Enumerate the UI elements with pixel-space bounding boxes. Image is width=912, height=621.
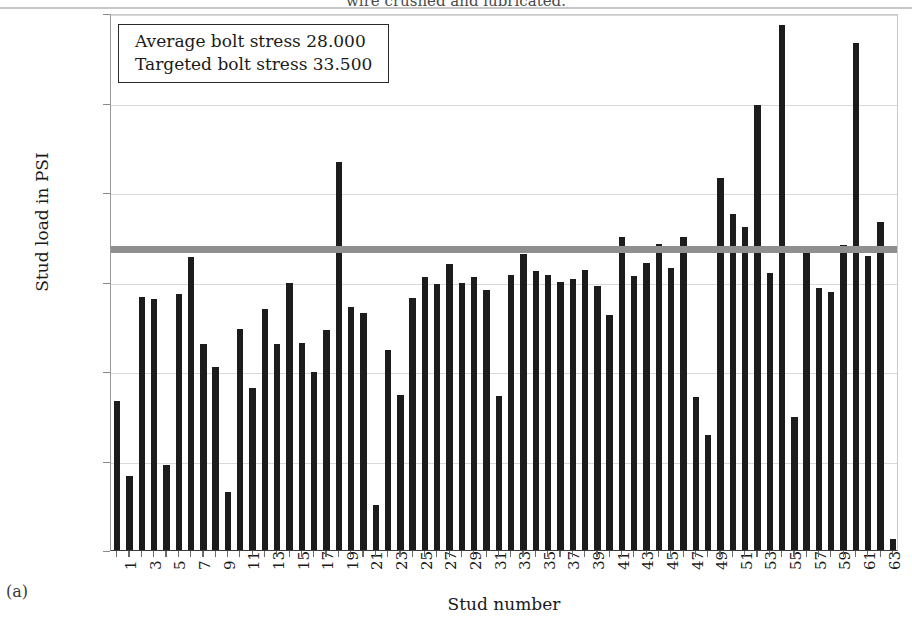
x-tick-label: 9 xyxy=(221,558,239,570)
x-tick-mark xyxy=(732,551,733,557)
x-tick-label: 43 xyxy=(639,558,657,570)
bar xyxy=(323,330,329,550)
bar xyxy=(237,329,243,550)
x-tick-mark xyxy=(375,551,376,557)
x-tick-mark xyxy=(646,551,647,557)
bar xyxy=(668,268,674,550)
x-tick-mark xyxy=(756,551,757,557)
x-tick-label: 7 xyxy=(196,558,214,570)
target-stress-line xyxy=(111,246,897,253)
x-tick-mark xyxy=(301,551,302,557)
x-tick-mark xyxy=(769,551,770,557)
x-tick-label: 5 xyxy=(171,558,189,570)
y-tick-mark xyxy=(103,462,110,463)
x-tick-mark xyxy=(276,551,277,557)
y-tick-mark xyxy=(103,14,110,15)
bar xyxy=(890,539,896,550)
x-tick-label: 57 xyxy=(812,558,830,570)
x-tick-mark xyxy=(227,551,228,557)
bar xyxy=(200,344,206,550)
x-tick-mark xyxy=(572,551,573,557)
x-tick-label: 27 xyxy=(442,558,460,570)
x-tick-mark xyxy=(178,551,179,557)
x-tick-mark xyxy=(264,551,265,557)
bar xyxy=(483,290,489,550)
bar xyxy=(705,435,711,550)
x-tick-label: 45 xyxy=(664,558,682,570)
bar xyxy=(286,283,292,550)
bar xyxy=(299,343,305,550)
y-tick-mark xyxy=(103,104,110,105)
x-tick-mark xyxy=(153,551,154,557)
bar xyxy=(262,309,268,550)
x-tick-label: 35 xyxy=(541,558,559,570)
x-tick-label: 11 xyxy=(245,558,263,570)
bar xyxy=(446,264,452,550)
bar xyxy=(619,237,625,550)
x-tick-mark xyxy=(867,551,868,557)
bar xyxy=(151,299,157,550)
legend-line-average: Average bolt stress 28.000 xyxy=(135,30,372,53)
x-tick-label: 17 xyxy=(319,558,337,570)
x-tick-mark xyxy=(559,551,560,557)
bar xyxy=(803,251,809,550)
x-tick-label: 23 xyxy=(393,558,411,570)
bar xyxy=(176,294,182,550)
x-tick-mark xyxy=(387,551,388,557)
bar xyxy=(434,284,440,550)
x-tick-mark xyxy=(362,551,363,557)
x-tick-label: 55 xyxy=(787,558,805,570)
bar xyxy=(249,388,255,550)
x-tick-mark xyxy=(141,551,142,557)
x-tick-mark xyxy=(695,551,696,557)
x-tick-label: 25 xyxy=(418,558,436,570)
bar xyxy=(385,350,391,550)
top-rule xyxy=(0,7,912,9)
bar xyxy=(754,105,760,550)
bar xyxy=(594,286,600,550)
y-tick-mark xyxy=(103,551,110,552)
bar xyxy=(877,222,883,550)
bar xyxy=(508,275,514,550)
bar xyxy=(606,315,612,550)
x-tick-mark xyxy=(596,551,597,557)
x-tick-mark xyxy=(855,551,856,557)
bar xyxy=(459,283,465,550)
x-tick-mark xyxy=(744,551,745,557)
x-tick-label: 29 xyxy=(467,558,485,570)
x-tick-mark xyxy=(609,551,610,557)
bar xyxy=(693,397,699,550)
x-tick-mark xyxy=(313,551,314,557)
bar xyxy=(557,282,563,551)
x-tick-mark xyxy=(424,551,425,557)
x-tick-mark xyxy=(486,551,487,557)
bar xyxy=(533,271,539,550)
x-axis-label: Stud number xyxy=(110,594,898,614)
x-tick-mark xyxy=(473,551,474,557)
x-tick-mark xyxy=(449,551,450,557)
x-tick-mark xyxy=(584,551,585,557)
bar xyxy=(311,372,317,550)
legend-box: Average bolt stress 28.000 Targeted bolt… xyxy=(118,24,389,83)
y-tick-mark xyxy=(103,193,110,194)
bar xyxy=(791,417,797,550)
x-tick-label: 39 xyxy=(590,558,608,570)
bar xyxy=(409,298,415,550)
bar xyxy=(360,313,366,550)
x-tick-mark xyxy=(289,551,290,557)
x-tick-mark xyxy=(350,551,351,557)
bar xyxy=(570,279,576,550)
x-tick-mark xyxy=(683,551,684,557)
bar xyxy=(126,476,132,550)
bar xyxy=(816,288,822,550)
bar xyxy=(545,275,551,550)
bar xyxy=(471,277,477,550)
bar xyxy=(582,270,588,550)
y-tick-mark xyxy=(103,283,110,284)
bar xyxy=(114,401,120,550)
x-tick-label: 51 xyxy=(738,558,756,570)
x-tick-mark xyxy=(190,551,191,557)
bar xyxy=(520,254,526,550)
x-tick-mark xyxy=(116,551,117,557)
bar xyxy=(212,367,218,550)
